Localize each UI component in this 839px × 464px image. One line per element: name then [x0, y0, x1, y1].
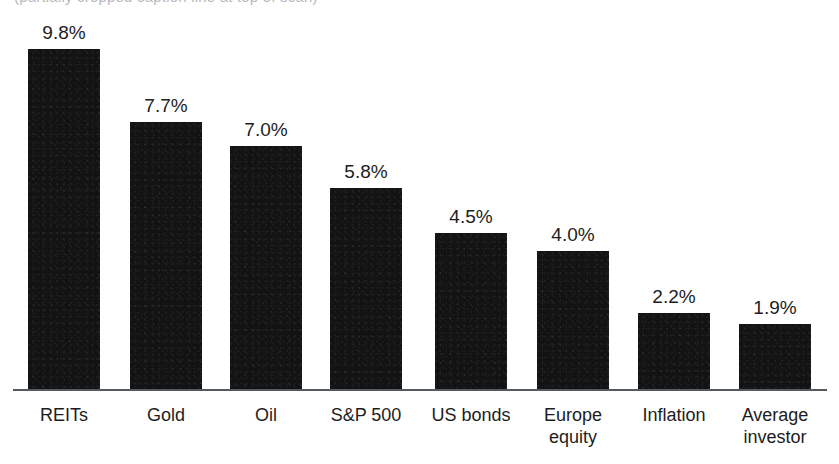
category-label-line: equity [515, 426, 631, 448]
category-label-reits: REITs [6, 404, 122, 426]
category-label-gold: Gold [108, 404, 224, 426]
category-label-average-investor: Averageinvestor [717, 404, 833, 448]
bar-group: 9.8% [28, 1, 100, 390]
plot-area: 9.8%7.7%7.0%5.8%4.5%4.0%2.2%1.9% [0, 0, 839, 390]
category-label-line: investor [717, 426, 833, 448]
bar-group: 4.0% [537, 1, 609, 390]
category-label-line: Average [717, 404, 833, 426]
bar-group: 4.5% [435, 1, 507, 390]
category-label-s-p-500: S&P 500 [308, 404, 424, 426]
bar-group: 1.9% [739, 1, 811, 390]
category-label-line: Europe [515, 404, 631, 426]
bar-value-label: 5.8% [312, 162, 420, 181]
bar-group: 5.8% [330, 1, 402, 390]
bar-reits [28, 49, 100, 390]
bar-value-label: 2.2% [620, 287, 728, 306]
bar-us-bonds [435, 233, 507, 390]
bar-value-label: 1.9% [721, 298, 829, 317]
bar-gold [130, 122, 202, 390]
bar-value-label: 4.0% [519, 225, 627, 244]
bar-value-label: 7.7% [112, 96, 220, 115]
category-label-oil: Oil [208, 404, 324, 426]
category-label-line: Gold [108, 404, 224, 426]
bar-s-p-500 [330, 188, 402, 390]
bar-value-label: 9.8% [10, 23, 118, 42]
category-axis: REITsGoldOilS&P 500US bondsEuropeequityI… [0, 404, 839, 462]
bar-group: 7.7% [130, 1, 202, 390]
bar-group: 2.2% [638, 1, 710, 390]
bar-value-label: 4.5% [417, 207, 525, 226]
category-label-line: REITs [6, 404, 122, 426]
bar-oil [230, 146, 302, 390]
bar-value-label: 7.0% [212, 120, 320, 139]
bar-group: 7.0% [230, 1, 302, 390]
category-label-inflation: Inflation [616, 404, 732, 426]
category-label-line: US bonds [413, 404, 529, 426]
category-label-line: S&P 500 [308, 404, 424, 426]
category-label-us-bonds: US bonds [413, 404, 529, 426]
x-axis-baseline [13, 389, 827, 391]
category-label-line: Oil [208, 404, 324, 426]
bar-inflation [638, 313, 710, 390]
category-label-europe-equity: Europeequity [515, 404, 631, 448]
category-label-line: Inflation [616, 404, 732, 426]
bar-chart: (partially cropped caption line at top o… [0, 0, 839, 464]
bar-europe-equity [537, 251, 609, 390]
bar-average-investor [739, 324, 811, 390]
